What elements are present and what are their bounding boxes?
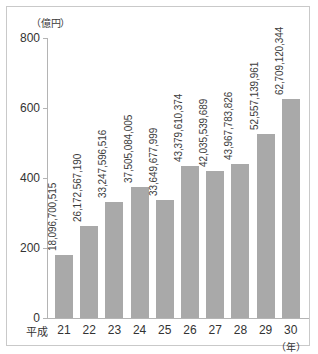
bar — [282, 99, 300, 318]
bar-value-label: 43,379,610,374 — [173, 94, 184, 162]
x-axis-label-26: 26 — [178, 323, 202, 337]
y-axis-tick-label: 600 — [20, 101, 40, 115]
bar-value-label: 43,967,783,826 — [223, 92, 234, 160]
bar — [181, 166, 199, 318]
y-axis-tick-mark — [43, 318, 48, 319]
y-axis-unit-label: （億円） — [31, 15, 70, 30]
y-axis-tick-mark — [43, 38, 48, 39]
x-axis-label-28: 28 — [228, 323, 252, 337]
bar — [131, 187, 149, 318]
x-axis-label-30: 30 — [279, 323, 303, 337]
y-axis-tick-mark — [43, 178, 48, 179]
y-axis-tick-label: 200 — [20, 241, 40, 255]
y-axis-tick-label: 800 — [20, 31, 40, 45]
bar — [257, 134, 275, 318]
y-axis-tick-label: 400 — [20, 171, 40, 185]
era-label: 平成 — [26, 323, 48, 339]
bar-value-label: 52,557,139,961 — [249, 62, 260, 130]
bar — [206, 171, 224, 318]
x-axis-label-29: 29 — [254, 323, 278, 337]
chart-frame: （億円） 0200400600800 18,096,700,51526,172,… — [6, 6, 310, 346]
x-axis-unit-label: （年） — [274, 339, 308, 354]
bar-value-label: 18,096,700,515 — [47, 183, 58, 251]
bar — [231, 164, 249, 318]
x-axis-label-24: 24 — [128, 323, 152, 337]
bar — [156, 200, 174, 318]
x-axis-label-21: 21 — [52, 323, 76, 337]
bar-value-label: 33,649,677,999 — [148, 128, 159, 196]
x-axis-line — [47, 318, 309, 319]
bar-value-label: 42,035,539,689 — [198, 99, 209, 167]
bar — [80, 226, 98, 318]
bar-value-label: 62,709,120,344 — [274, 26, 285, 94]
bar — [55, 255, 73, 318]
bar-value-label: 37,505,084,005 — [123, 115, 134, 183]
x-axis-label-25: 25 — [153, 323, 177, 337]
bar-value-label: 33,247,596,516 — [97, 130, 108, 198]
bar — [105, 202, 123, 318]
bar-value-label: 26,172,567,190 — [72, 154, 83, 222]
x-axis-label-22: 22 — [77, 323, 101, 337]
x-axis-label-27: 27 — [203, 323, 227, 337]
y-axis-tick-mark — [43, 108, 48, 109]
x-axis-label-23: 23 — [102, 323, 126, 337]
plot-area: 0200400600800 18,096,700,51526,172,567,1… — [47, 32, 309, 318]
